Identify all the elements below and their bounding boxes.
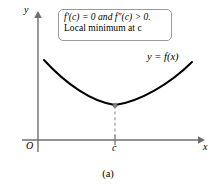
x-axis-label: x [203, 141, 207, 152]
origin-label: O [26, 140, 33, 151]
callout-line-1: f′(c) = 0 and f″(c) > 0. [64, 12, 167, 23]
figure-caption: (a) [0, 168, 216, 179]
second-derivative-test-callout: f′(c) = 0 and f″(c) > 0. Local minimum a… [58, 9, 172, 41]
figure-local-minimum-second-derivative-test: f′(c) = 0 and f″(c) > 0. Local minimum a… [0, 0, 216, 190]
x-tick-label-c: c [112, 142, 116, 153]
y-axis [34, 11, 42, 152]
local-minimum-point [113, 103, 117, 107]
curve-f-of-x [44, 60, 192, 105]
y-axis-arrowhead [34, 11, 42, 18]
callout-line-2: Local minimum at c [64, 23, 167, 34]
y-axis-label: y [24, 4, 28, 15]
curve-label: y = f(x) [147, 51, 179, 62]
